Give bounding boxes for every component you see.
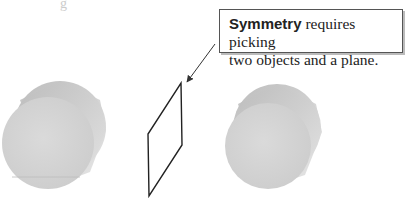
cropped-text-fragment: g	[60, 0, 67, 12]
callout-line2-text: two objects and a plane.	[229, 51, 378, 68]
left-cylinder[interactable]	[2, 81, 106, 189]
callout-arrow	[187, 44, 215, 82]
symmetry-callout: Symmetry requires picking two objects an…	[219, 9, 403, 53]
left-cylinder-face	[2, 97, 94, 189]
callout-keyword: Symmetry	[229, 15, 302, 32]
mirror-plane[interactable]	[148, 83, 182, 196]
right-cylinder-face	[225, 103, 311, 189]
right-cylinder[interactable]	[225, 84, 322, 189]
